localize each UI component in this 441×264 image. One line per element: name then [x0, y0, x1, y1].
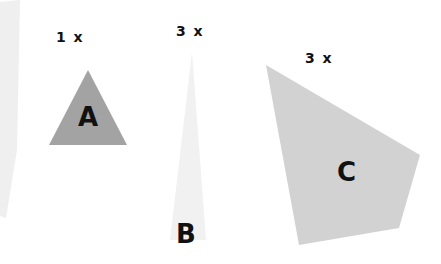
- scale-label-b: 3 x: [176, 24, 204, 38]
- shape-quad-c: [266, 65, 420, 245]
- scale-label-a: 1 x: [56, 30, 84, 44]
- shape-wedge-b: [170, 52, 206, 240]
- shape-letter-b: B: [176, 221, 196, 247]
- shape-wedge-left: [0, 0, 20, 218]
- figure-canvas: 1 x 3 x 3 x A B C: [0, 0, 441, 264]
- shape-letter-c: C: [337, 159, 356, 185]
- shape-letter-a: A: [78, 104, 98, 130]
- scale-label-c: 3 x: [305, 51, 333, 65]
